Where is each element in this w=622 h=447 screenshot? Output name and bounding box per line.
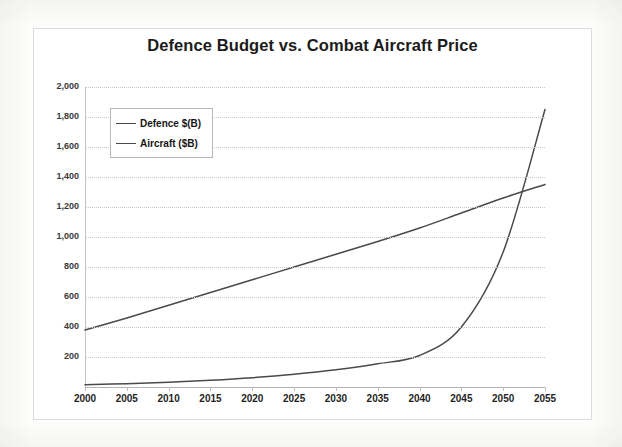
legend-label-defence: Defence $(B) bbox=[140, 118, 201, 129]
y-axis-tick-label: 1,400 bbox=[35, 171, 79, 181]
x-axis-tick bbox=[420, 387, 421, 391]
gridline-y-2000 bbox=[85, 87, 545, 88]
chart-title: Defence Budget vs. Combat Aircraft Price bbox=[33, 36, 592, 55]
x-axis-tick bbox=[378, 387, 379, 391]
legend-item-aircraft: Aircraft ($B) bbox=[116, 133, 207, 153]
x-axis-tick-label: 2025 bbox=[274, 393, 314, 404]
legend-line-swatch-defence bbox=[116, 123, 136, 124]
x-axis-tick bbox=[461, 387, 462, 391]
y-axis-tick-label: 400 bbox=[35, 321, 79, 331]
x-axis-tick bbox=[545, 387, 546, 391]
gridline-y-1000 bbox=[85, 237, 545, 238]
x-axis-tick-label: 2055 bbox=[525, 393, 565, 404]
y-axis-tick-label: 800 bbox=[35, 261, 79, 271]
gridline-y-800 bbox=[85, 267, 545, 268]
x-axis-tick bbox=[210, 387, 211, 391]
x-axis-tick-label: 2020 bbox=[232, 393, 272, 404]
x-axis-tick bbox=[85, 387, 86, 391]
legend-label-aircraft: Aircraft ($B) bbox=[140, 138, 198, 149]
x-axis-tick bbox=[169, 387, 170, 391]
y-axis-tick-label: 1,200 bbox=[35, 201, 79, 211]
scanned-page: Defence Budget vs. Combat Aircraft Price… bbox=[0, 0, 622, 447]
x-axis-tick-label: 2005 bbox=[107, 393, 147, 404]
y-axis-tick-label: 600 bbox=[35, 291, 79, 301]
y-axis-tick-label: 200 bbox=[35, 351, 79, 361]
x-axis-tick bbox=[127, 387, 128, 391]
x-axis-tick-label: 2050 bbox=[483, 393, 523, 404]
gridline-y-0 bbox=[85, 387, 545, 388]
x-axis-tick bbox=[252, 387, 253, 391]
gridline-y-1200 bbox=[85, 207, 545, 208]
x-axis-tick bbox=[336, 387, 337, 391]
gridline-y-1400 bbox=[85, 177, 545, 178]
x-axis-tick-label: 2040 bbox=[400, 393, 440, 404]
x-axis-tick-label: 2000 bbox=[65, 393, 105, 404]
x-axis-tick bbox=[503, 387, 504, 391]
gridline-y-200 bbox=[85, 357, 545, 358]
y-axis-tick-label: 1,000 bbox=[35, 231, 79, 241]
legend-line-swatch-aircraft bbox=[116, 143, 136, 144]
x-axis-tick bbox=[294, 387, 295, 391]
y-axis-tick-label: 2,000 bbox=[35, 81, 79, 91]
chart-legend: Defence $(B) Aircraft ($B) bbox=[110, 108, 213, 158]
x-axis-tick-label: 2015 bbox=[190, 393, 230, 404]
x-axis-tick-label: 2035 bbox=[358, 393, 398, 404]
gridline-y-600 bbox=[85, 297, 545, 298]
y-axis-tick-label: 1,800 bbox=[35, 111, 79, 121]
legend-item-defence: Defence $(B) bbox=[116, 113, 207, 133]
x-axis-tick-label: 2010 bbox=[149, 393, 189, 404]
gridline-y-400 bbox=[85, 327, 545, 328]
x-axis-tick-label: 2030 bbox=[316, 393, 356, 404]
x-axis-tick-label: 2045 bbox=[441, 393, 481, 404]
y-axis-tick-label: 1,600 bbox=[35, 141, 79, 151]
